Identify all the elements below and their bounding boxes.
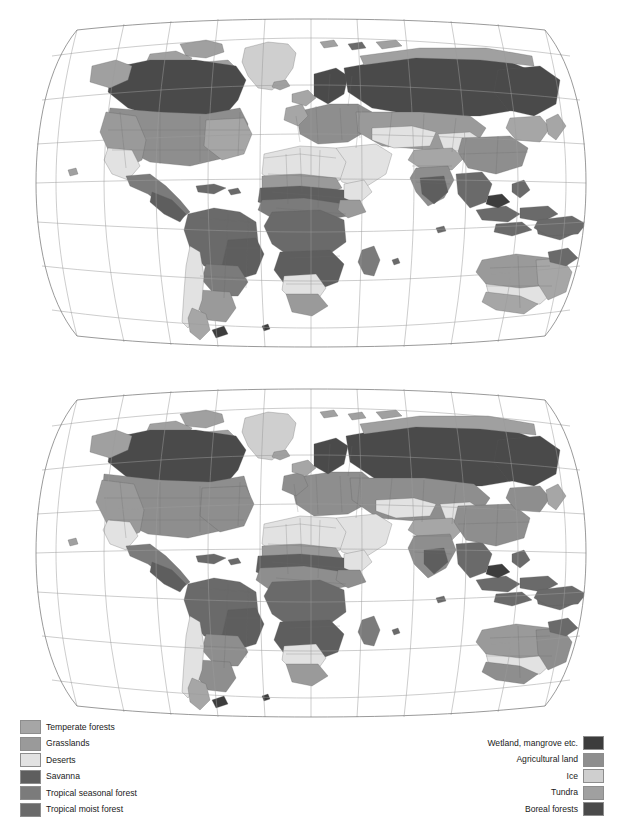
legend-item: Tropical moist forest — [20, 802, 137, 818]
legend-label-tropical-moist-forest: Tropical moist forest — [46, 804, 123, 815]
legend-label-ice: Ice — [567, 771, 578, 782]
world-map-top — [0, 8, 622, 358]
legend-item: Deserts — [20, 752, 137, 768]
legend-right: Wetland, mangrove etc. Agricultural land… — [487, 735, 604, 818]
legend-item: Tundra — [487, 785, 604, 801]
legend-item: Grasslands — [20, 736, 137, 752]
legend-label-deserts: Deserts — [46, 755, 76, 766]
legend-swatch-ice — [583, 769, 604, 783]
legend-label-savanna: Savanna — [46, 771, 80, 782]
legend-item: Temperate forests — [20, 719, 137, 735]
legend-item: Ice — [487, 768, 604, 784]
legend-swatch-grasslands — [20, 737, 41, 751]
legend-label-tundra: Tundra — [551, 787, 578, 798]
legend-label-tropical-seasonal-forest: Tropical seasonal forest — [46, 788, 137, 799]
legend-swatch-deserts — [20, 753, 41, 767]
legend-item: Boreal forests — [487, 801, 604, 817]
world-map-bottom — [0, 378, 622, 728]
world-map-bottom-svg — [0, 378, 622, 728]
legend-swatch-wetland-mangrove — [583, 736, 604, 750]
legend-label-boreal-forests: Boreal forests — [525, 804, 578, 815]
legend-label-wetland-mangrove: Wetland, mangrove etc. — [487, 738, 578, 749]
legend-left: Temperate forests Grasslands Deserts Sav… — [20, 719, 137, 818]
world-map-top-svg — [0, 8, 622, 358]
legend-swatch-boreal-forests — [583, 802, 604, 816]
figure-two-world-biome-maps: Temperate forests Grasslands Deserts Sav… — [0, 0, 622, 834]
legend-item: Agricultural land — [487, 752, 604, 768]
legend-swatch-savanna — [20, 770, 41, 784]
legend-label-grasslands: Grasslands — [46, 738, 89, 749]
legend-swatch-tundra — [583, 786, 604, 800]
legend-swatch-agricultural-land — [583, 753, 604, 767]
legend-swatch-tropical-seasonal-forest — [20, 786, 41, 800]
legend-label-temperate-forests: Temperate forests — [46, 722, 115, 733]
legend-swatch-tropical-moist-forest — [20, 803, 41, 817]
legend-swatch-temperate-forests — [20, 720, 41, 734]
legend-item: Wetland, mangrove etc. — [487, 735, 604, 751]
legend-label-agricultural-land: Agricultural land — [516, 754, 578, 765]
legend-item: Savanna — [20, 769, 137, 785]
legend-item: Tropical seasonal forest — [20, 785, 137, 801]
